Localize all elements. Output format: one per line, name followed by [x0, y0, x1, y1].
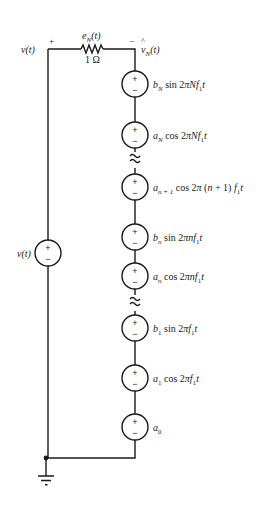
- minus-sign: −: [132, 428, 137, 438]
- break-icon: [130, 298, 140, 306]
- plus-sign: +: [132, 318, 137, 328]
- source-label-an1: an + 1 cos 2π (n + 1) f1t: [153, 182, 243, 196]
- minus-sign: −: [132, 277, 137, 287]
- resistor-icon: [81, 45, 103, 53]
- source-label-bn: bn sin 2πnf1t: [153, 232, 202, 246]
- junction-dot: [44, 456, 49, 461]
- plus-sign: +: [132, 227, 137, 237]
- minus-sign: −: [132, 188, 137, 198]
- plus-sign: +: [132, 177, 137, 187]
- node-right-label: vN(t): [141, 44, 160, 58]
- node-left-polarity: +: [49, 36, 54, 46]
- plus-sign: +: [132, 266, 137, 276]
- wire-bottom: [46, 440, 135, 458]
- resistor-value: 1 Ω: [85, 54, 100, 65]
- source-label-an: an cos 2πnf1t: [153, 271, 204, 285]
- node-right-hat: ^: [141, 37, 145, 46]
- minus-sign: −: [132, 329, 137, 339]
- minus-sign: −: [132, 85, 137, 95]
- ground-tail: [45, 484, 48, 486]
- source-label-bN: bN sin 2πNf1t: [153, 79, 205, 93]
- plus-sign: +: [132, 125, 137, 135]
- resistor-current-label: eN(t): [82, 30, 101, 44]
- break-icon: [130, 155, 140, 163]
- source-label-a1: a1 cos 2πf1t: [153, 373, 199, 387]
- plus-sign: +: [132, 368, 137, 378]
- wire-top-right: [103, 49, 135, 71]
- minus-sign: −: [132, 136, 137, 146]
- source-label-a0: a0: [153, 422, 162, 436]
- source-label-b1: b1 sin 2πf1t: [153, 323, 197, 337]
- left-source-label: v(t): [17, 248, 32, 260]
- node-left-label: v(t): [21, 44, 36, 56]
- ground-icon: [38, 458, 54, 481]
- node-right-polarity: −: [129, 36, 134, 46]
- source-label-aN: aN cos 2πNf1t: [153, 130, 207, 144]
- plus-sign: +: [132, 417, 137, 427]
- minus-sign: −: [45, 254, 50, 264]
- minus-sign: −: [132, 238, 137, 248]
- minus-sign: −: [132, 379, 137, 389]
- plus-sign: +: [45, 243, 50, 253]
- plus-sign: +: [132, 74, 137, 84]
- circuit-diagram: + − + − + − + − + − + − + − + − + − v(t)…: [0, 0, 266, 507]
